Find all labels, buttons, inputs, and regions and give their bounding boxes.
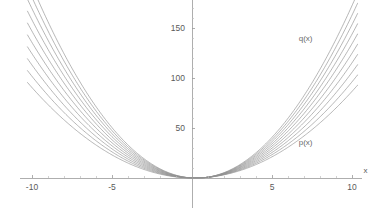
x-tick-label-5: 5: [270, 182, 275, 192]
curve-4: [28, 47, 358, 178]
tick-labels-group: -10-551050100150: [26, 23, 357, 192]
x-tick-label--5: -5: [108, 182, 116, 192]
x-tick-label--10: -10: [26, 182, 39, 192]
axes-group: [20, 0, 361, 208]
y-tick-label-150: 150: [171, 23, 185, 33]
plot-svg: -10-551050100150 q(x)p(x)x: [0, 0, 383, 214]
chart-canvas: -10-551050100150 q(x)p(x)x: [0, 0, 383, 214]
y-tick-label-100: 100: [171, 73, 185, 83]
x-axis-label: x: [364, 166, 368, 175]
curve-5: [28, 35, 358, 178]
curve-2: [28, 71, 358, 178]
curve-annotation-qx: q(x): [299, 34, 313, 43]
y-tick-label-50: 50: [176, 123, 186, 133]
curve-1: [28, 83, 358, 178]
curve-family: [28, 0, 358, 178]
curve-annotation-px: p(x): [299, 138, 313, 147]
curve-6: [28, 23, 358, 178]
x-tick-label-10: 10: [347, 182, 357, 192]
